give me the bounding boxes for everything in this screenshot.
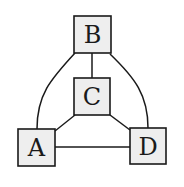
edge-b-d: [110, 54, 148, 128]
graph-diagram: B C A D: [0, 0, 184, 187]
node-d: D: [130, 128, 166, 164]
edge-c-d: [110, 115, 130, 130]
edge-c-a: [55, 115, 75, 131]
node-a: A: [18, 129, 55, 166]
node-a-label: A: [27, 134, 46, 162]
node-c-label: C: [83, 83, 101, 111]
node-c: C: [74, 78, 110, 115]
node-b-label: B: [84, 21, 102, 49]
edge-b-a: [37, 53, 75, 129]
node-b: B: [74, 16, 111, 53]
node-d-label: D: [138, 133, 157, 161]
